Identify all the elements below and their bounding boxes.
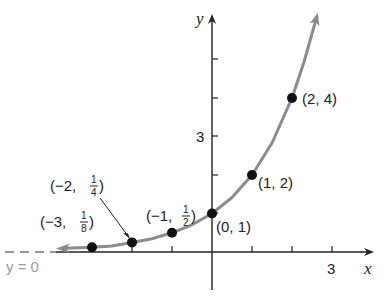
svg-text:2: 2 [183, 217, 189, 228]
label-leader-line [100, 198, 128, 236]
point-neg1 [167, 228, 177, 238]
exponential-graph: y x 3 3 y = 0 (2, 4) (1, 2) (0, 1) (−1, … [0, 0, 388, 302]
data-points [87, 93, 297, 252]
point-label-neg1-half: (−1, 1 2 ) [146, 204, 196, 228]
x-tick-label-3: 3 [327, 260, 335, 277]
svg-text:4: 4 [91, 187, 97, 198]
point-2 [287, 93, 297, 103]
svg-text:1: 1 [91, 174, 97, 185]
point-neg2 [127, 237, 137, 247]
svg-text:): ) [89, 213, 94, 230]
point-0 [207, 209, 217, 219]
svg-text:1: 1 [183, 204, 189, 215]
point-label-0-1: (0, 1) [216, 218, 251, 235]
point-label-neg3-eighth: (−3, 1 8 ) [40, 210, 94, 234]
svg-text:): ) [99, 177, 104, 194]
leader-arrowhead-icon [123, 233, 130, 239]
x-axis-label: x [363, 259, 372, 278]
svg-text:(−2,: (−2, [50, 177, 76, 194]
svg-text:(−3,: (−3, [40, 213, 66, 230]
point-label-neg2-quarter: (−2, 1 4 ) [50, 174, 104, 198]
point-1 [247, 170, 257, 180]
asymptote-label: y = 0 [6, 258, 39, 275]
y-tick-label-3: 3 [196, 128, 204, 145]
svg-text:1: 1 [81, 210, 87, 221]
y-ticks [212, 59, 218, 213]
point-label-1-2: (1, 2) [258, 174, 293, 191]
point-label-2-4: (2, 4) [302, 90, 337, 107]
svg-text:): ) [191, 207, 196, 224]
svg-text:8: 8 [81, 223, 87, 234]
svg-text:(−1,: (−1, [146, 207, 172, 224]
point-neg3 [87, 242, 97, 252]
y-axis-label: y [194, 9, 204, 28]
